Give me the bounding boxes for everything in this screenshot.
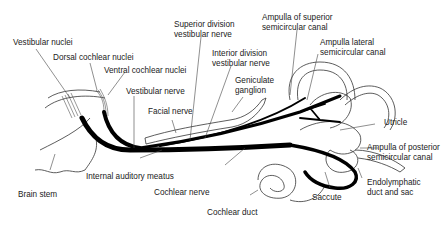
label-inferior-division-2: vestibular nerve	[212, 59, 270, 69]
label-superior-division-2: vestibular nerve	[174, 30, 232, 40]
label-ampulla-posterior-2: semicircular canal	[367, 153, 433, 163]
label-endolymphatic-2: duct and sac	[367, 188, 413, 198]
label-ampulla-superior-2: semicircular canal	[262, 23, 328, 33]
label-ampulla-posterior: Ampulla of posterior	[367, 143, 440, 153]
label-internal-auditory-meatus: Internal auditory meatus	[86, 172, 174, 182]
label-facial-nerve: Facial nerve	[148, 107, 193, 117]
label-vestibular-nerve: Vestibular nerve	[126, 87, 185, 97]
label-ampulla-lateral-2: semicircular canal	[320, 48, 386, 58]
inner-ear-diagram: Vestibular nuclei Dorsal cochlear nuclei…	[0, 0, 447, 230]
label-ampulla-lateral: Ampulla lateral	[320, 38, 374, 48]
label-geniculate-ganglion: Geniculate	[235, 76, 274, 86]
label-dorsal-cochlear-nuclei: Dorsal cochlear nuclei	[53, 53, 134, 63]
label-cochlear-duct: Cochlear duct	[207, 208, 258, 218]
label-vestibular-nuclei: Vestibular nuclei	[13, 38, 73, 48]
label-saccule: Saccute	[312, 193, 342, 203]
label-brain-stem: Brain stem	[18, 190, 57, 200]
label-ampulla-superior: Ampulla of superior	[262, 13, 333, 23]
label-superior-division: Superior division	[174, 20, 235, 30]
label-inferior-division: Interior division	[212, 49, 267, 59]
label-ventral-cochlear-nuclei: Ventral cochlear nuclei	[104, 66, 186, 76]
label-geniculate-ganglion-2: ganglion	[235, 86, 266, 96]
label-endolymphatic: Endolymphatic	[367, 178, 421, 188]
label-utricle: Utricle	[384, 118, 407, 128]
label-cochlear-nerve: Cochlear nerve	[154, 188, 210, 198]
